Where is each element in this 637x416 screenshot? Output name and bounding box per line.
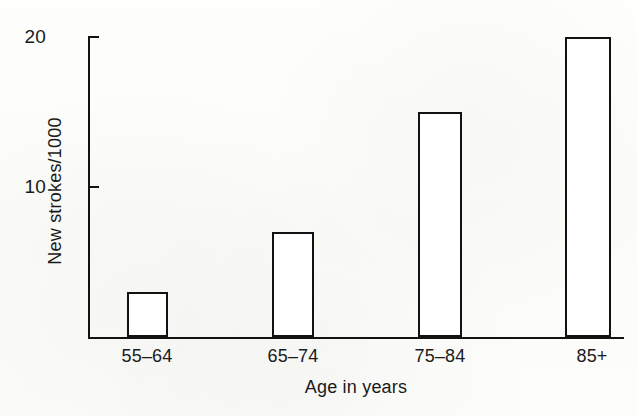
y-axis-tick-label-20: 20 (6, 27, 46, 46)
bar-55-64 (127, 292, 168, 337)
y-axis-tick-label-10: 10 (6, 177, 46, 196)
x-axis-title: Age in years (88, 376, 624, 398)
y-axis-title: New strokes/1000 (45, 61, 65, 321)
x-axis-tick-label-85-plus: 85+ (547, 345, 637, 367)
x-axis-tick-label-75-84: 75–84 (395, 345, 485, 367)
y-axis-tick-20 (90, 36, 99, 38)
bar-65-74 (272, 232, 314, 337)
x-axis-tick-label-55-64: 55–64 (102, 345, 192, 367)
y-axis-tick-10 (90, 186, 99, 188)
x-axis-line (88, 337, 624, 339)
bar-chart-figure: 20 10 55–64 65–74 75–84 85+ New strokes/… (0, 0, 637, 416)
bar-85-plus (565, 37, 611, 337)
x-axis-tick-label-65-74: 65–74 (248, 345, 338, 367)
bar-75-84 (418, 112, 462, 337)
